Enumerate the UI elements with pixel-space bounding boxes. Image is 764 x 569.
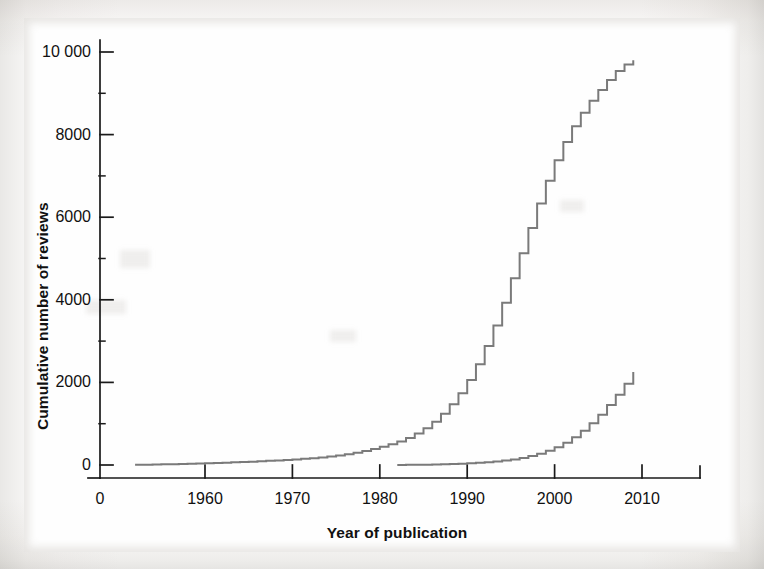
y-tick-label: 2000 xyxy=(0,373,91,391)
x-axis-title: Year of publication xyxy=(0,524,764,542)
scanned-page-canvas: Cumulative number of reviews Year of pub… xyxy=(0,0,764,569)
x-axis-break-label: 0 xyxy=(96,490,105,508)
axes-group xyxy=(88,40,700,478)
y-tick-label: 8000 xyxy=(0,126,91,144)
y-tick-label: 4000 xyxy=(0,291,91,309)
x-tick-label: 1970 xyxy=(275,490,311,508)
x-tick-label: 1980 xyxy=(362,490,398,508)
chart-figure xyxy=(0,0,764,569)
y-tick-label: 0 xyxy=(0,456,91,474)
y-axis-title: Cumulative number of reviews xyxy=(34,202,52,430)
data-series-group xyxy=(135,60,633,465)
x-tick-label: 1990 xyxy=(449,490,485,508)
x-tick-label: 2010 xyxy=(624,490,660,508)
x-axis-title-text: Year of publication xyxy=(327,524,468,542)
series-line-1 xyxy=(135,60,633,465)
series-line-2 xyxy=(397,372,633,465)
x-tick-label: 2000 xyxy=(537,490,573,508)
y-tick-label: 6000 xyxy=(0,208,91,226)
x-tick-label: 1960 xyxy=(187,490,223,508)
y-tick-label: 10 000 xyxy=(0,43,91,61)
